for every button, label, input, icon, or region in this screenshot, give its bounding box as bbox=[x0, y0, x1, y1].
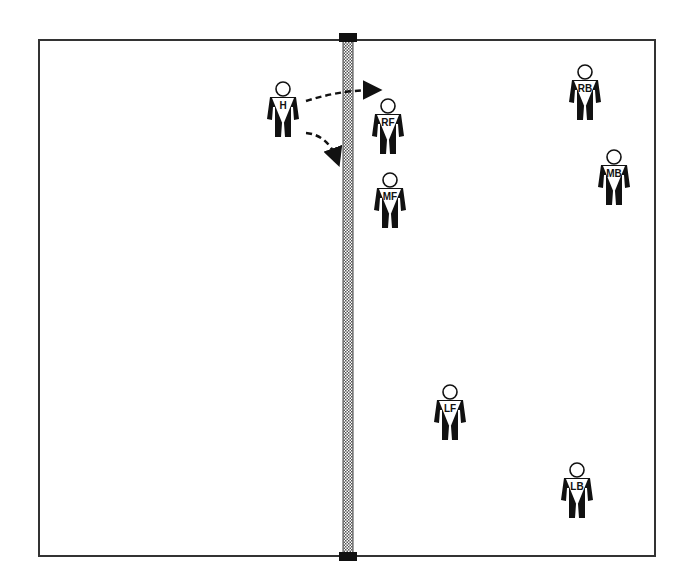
player-label: MB bbox=[606, 168, 622, 179]
player-mb: MB bbox=[598, 150, 630, 205]
player-label: RB bbox=[578, 83, 592, 94]
player-label: LB bbox=[570, 481, 583, 492]
player-label: H bbox=[279, 100, 286, 111]
player-lb: LB bbox=[561, 463, 593, 518]
player-label: RF bbox=[381, 117, 394, 128]
player-lf: LF bbox=[434, 385, 466, 440]
arrow-h-to-net bbox=[306, 133, 337, 160]
net-post-bottom bbox=[339, 552, 357, 561]
net bbox=[339, 33, 357, 561]
player-label: MF bbox=[383, 191, 397, 202]
player-label: LF bbox=[444, 403, 456, 414]
net-post-top bbox=[339, 33, 357, 42]
player-rb: RB bbox=[569, 65, 601, 120]
player-rf: RF bbox=[372, 99, 404, 154]
volleyball-court-diagram: H RF MF RB MB LF LB bbox=[0, 0, 688, 578]
attack-arrows bbox=[306, 90, 375, 160]
player-h: H bbox=[267, 82, 299, 137]
arrow-h-cross-court bbox=[306, 90, 375, 101]
player-mf: MF bbox=[374, 173, 406, 228]
